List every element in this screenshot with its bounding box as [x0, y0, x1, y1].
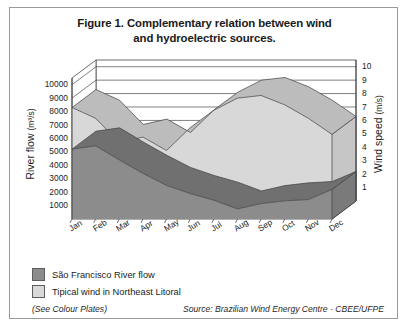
legend-item-river-flow: São Francisco River flow: [32, 266, 282, 283]
y-tick-right-9: 9: [362, 75, 376, 85]
figure-footer: (See Colour Plates) Source: Brazilian Wi…: [32, 304, 384, 314]
y-tick-right-6: 6: [362, 115, 376, 125]
y-tick-left-5000: 5000: [34, 146, 68, 156]
y-tick-left-3000: 3000: [34, 173, 68, 183]
y-tick-left-4000: 4000: [34, 160, 68, 170]
legend-swatch-river-flow: [32, 268, 45, 281]
chart-legend: São Francisco River flowTipical wind in …: [32, 266, 282, 300]
figure-title-line-2: and hydroelectric sources.: [10, 31, 399, 46]
y-tick-right-1: 1: [362, 182, 376, 192]
figure-frame: Figure 1. Complementary relation between…: [9, 7, 398, 319]
y-tick-left-6000: 6000: [34, 133, 68, 143]
legend-swatch-wind: [32, 285, 45, 298]
source-note: Source: Brazilian Wind Energy Centre - C…: [183, 304, 384, 314]
colour-plates-note: (See Colour Plates): [32, 304, 107, 314]
figure-title-line-1: Figure 1. Complementary relation between…: [10, 16, 399, 31]
y-tick-right-5: 5: [362, 128, 376, 138]
legend-item-wind: Tipical wind in Northeast Litoral: [32, 283, 282, 300]
y-tick-right-2: 2: [362, 169, 376, 179]
legend-label-river-flow: São Francisco River flow: [52, 270, 155, 280]
y-tick-right-4: 4: [362, 142, 376, 152]
y-tick-left-2000: 2000: [34, 187, 68, 197]
y-tick-left-7000: 7000: [34, 120, 68, 130]
y-tick-left-1000: 1000: [34, 200, 68, 210]
y-tick-left-9000: 9000: [34, 93, 68, 103]
y-tick-right-7: 7: [362, 102, 376, 112]
y-tick-right-8: 8: [362, 88, 376, 98]
y-tick-left-8000: 8000: [34, 106, 68, 116]
y-tick-left-10000: 10000: [34, 79, 68, 89]
y-tick-right-3: 3: [362, 155, 376, 165]
y-tick-right-10: 10: [362, 61, 376, 71]
legend-label-wind: Tipical wind in Northeast Litoral: [52, 287, 181, 297]
page-title: Figure 1. Complementary relation between…: [10, 16, 399, 46]
chart-area: River flow (m³/s) Wind speed (m/s) 10002…: [10, 56, 399, 256]
